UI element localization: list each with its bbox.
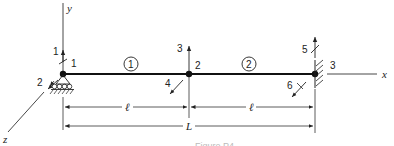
dof-5-arrow-icon: 5 bbox=[302, 37, 319, 58]
dimension-l1-label: ℓ bbox=[125, 101, 130, 113]
dof-5-label: 5 bbox=[302, 44, 308, 55]
dof-3-arrow-icon: 3 bbox=[177, 43, 189, 72]
dof-6-label: 6 bbox=[287, 80, 293, 91]
x-axis: x bbox=[327, 68, 387, 80]
dimension-L-label: L bbox=[185, 120, 192, 132]
node-1-label: 1 bbox=[71, 58, 77, 69]
node-3-label: 3 bbox=[330, 60, 336, 71]
dimension-total: L bbox=[65, 120, 313, 132]
dof-2-label: 2 bbox=[37, 77, 43, 88]
dof-2-arrow-icon: 2 bbox=[37, 77, 58, 89]
dof-1-arrow-icon: 1 bbox=[53, 46, 67, 64]
node-2-label: 2 bbox=[195, 60, 201, 71]
z-axis: z bbox=[2, 92, 44, 145]
dof-1-label: 1 bbox=[53, 46, 59, 57]
dimension-l2-label: ℓ bbox=[249, 101, 254, 113]
dof-6-arrow-icon: 6 bbox=[287, 80, 306, 97]
dof-4-label: 4 bbox=[165, 78, 171, 89]
x-axis-label: x bbox=[381, 68, 387, 80]
element-2-label: 2 bbox=[242, 57, 256, 71]
figure-caption: Figure P4-... bbox=[195, 141, 245, 146]
y-axis-label: y bbox=[66, 2, 72, 14]
dimension-element-2: ℓ bbox=[191, 101, 313, 113]
dof-3-label: 3 bbox=[177, 43, 183, 54]
beam-diagram: y z x 1 2 1 bbox=[0, 0, 394, 146]
svg-text:1: 1 bbox=[128, 59, 134, 70]
dof-4-arrow-icon: 4 bbox=[165, 78, 183, 94]
z-axis-label: z bbox=[2, 133, 8, 145]
element-1-label: 1 bbox=[124, 57, 138, 71]
svg-text:2: 2 bbox=[246, 59, 252, 70]
dimension-element-1: ℓ bbox=[65, 101, 187, 113]
